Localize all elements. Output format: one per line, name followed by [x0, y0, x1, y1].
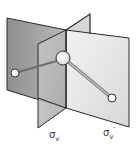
label-sigma-v-prime: σv′: [103, 128, 115, 141]
right-atom: [108, 94, 116, 102]
label-sigma-v: σv: [49, 130, 60, 143]
plane-sigma-v-prime-right: [66, 30, 129, 127]
prime-mark: ′: [114, 127, 116, 136]
central-atom: [56, 51, 70, 65]
symmetry-planes-diagram: [0, 0, 139, 147]
plane-sigma-v-front-lower: [38, 30, 66, 128]
left-atom: [11, 69, 19, 77]
subscript: v: [55, 135, 59, 143]
